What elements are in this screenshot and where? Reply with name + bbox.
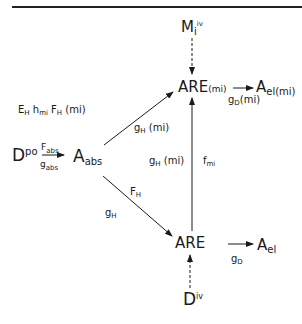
arrow-aabs-to-are-mi	[104, 92, 173, 145]
node-ael-mi: Ael(mi)	[256, 80, 296, 95]
label-gh-mi-middle: gH (mi)	[149, 156, 184, 166]
label-f-h: FH	[130, 187, 141, 197]
label-gh-mi-diagonal: gH (mi)	[134, 123, 169, 133]
label-g-h: gH	[105, 208, 117, 218]
label-eh-hmi-fh-mi: EH hmi FH (mi)	[18, 105, 86, 115]
label-g-abs: gabs	[40, 160, 58, 169]
label-gd-mi: gD(mi)	[228, 95, 260, 105]
node-d-iv: Div	[183, 291, 203, 308]
node-a-abs: Aabs	[73, 148, 102, 165]
node-are-mi: ARE(mi)	[178, 80, 226, 95]
label-g-d: gD	[231, 254, 243, 264]
arrow-aabs-to-are	[103, 176, 172, 236]
label-f-mi: fmi	[203, 156, 215, 166]
node-are: ARE	[175, 236, 205, 251]
label-f-abs: Fabs	[41, 143, 59, 152]
node-a-el: Ael	[257, 238, 276, 253]
node-mi-iv: Miiv	[181, 20, 203, 35]
node-d-po: Dpo	[12, 147, 38, 164]
